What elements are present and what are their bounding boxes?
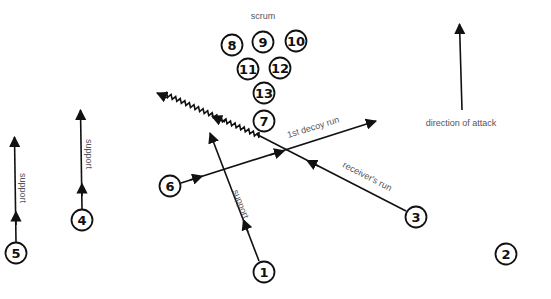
direction-of-attack-label: direction of attack [426,118,497,128]
decoy-run-label: 1st decoy run [286,114,341,139]
rugby-move-diagram: scrum direction of attack support suppor… [0,0,551,299]
svg-text:10: 10 [287,34,305,49]
scrum-label: scrum [251,11,276,21]
svg-text:9: 9 [258,35,267,50]
player-11: 11 [238,59,259,80]
support-label-5: support [18,173,28,204]
svg-text:6: 6 [165,179,174,194]
player-2: 2 [496,244,517,265]
support-label-4: support [84,139,94,170]
receiver-run-label: receiver's run [341,160,393,193]
pass-line [157,92,261,138]
svg-text:5: 5 [11,246,20,261]
svg-text:1: 1 [259,265,268,280]
support-run-4 [81,110,83,209]
direction-of-attack-arrow [460,24,463,110]
svg-text:8: 8 [227,38,236,53]
player-3: 3 [406,207,427,228]
svg-text:13: 13 [255,86,273,101]
player-5: 5 [6,243,27,264]
svg-text:7: 7 [259,114,268,129]
support-label-1: support [231,188,251,220]
svg-text:2: 2 [501,247,510,262]
player-12: 12 [270,58,291,79]
player-6: 6 [160,176,181,197]
receiver-run [256,134,406,211]
player-9: 9 [253,32,274,53]
player-7: 7 [254,111,275,132]
player-1: 1 [254,262,275,283]
decoy-run [181,121,376,183]
player-8: 8 [222,35,243,56]
player-4: 4 [72,210,93,231]
svg-text:3: 3 [411,210,420,225]
support-run-5 [15,137,17,242]
player-13: 13 [254,83,275,104]
svg-text:12: 12 [271,61,289,76]
svg-text:11: 11 [239,62,257,77]
svg-text:4: 4 [77,213,86,228]
player-10: 10 [286,31,307,52]
